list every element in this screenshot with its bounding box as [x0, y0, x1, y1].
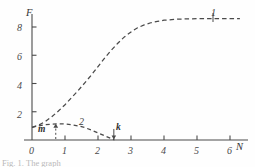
- x-tick-label-4: 4: [161, 146, 166, 156]
- figure-container: F N 8 6 4 2 0 1 2 3 4 5 6 1 2 m k Fig. 1…: [0, 0, 255, 167]
- y-tick-label-4: 4: [17, 81, 22, 91]
- plot-canvas: [0, 0, 255, 167]
- x-tick-label-0: 0: [29, 146, 34, 156]
- y-tick-label-6: 6: [17, 52, 22, 62]
- curve-label-1: 1: [211, 8, 216, 18]
- x-axis-label: N: [236, 142, 243, 153]
- y-axis-label: F: [26, 8, 32, 19]
- x-tick-label-1: 1: [62, 146, 67, 156]
- x-tick-label-5: 5: [194, 146, 199, 156]
- annotation-label-k: k: [116, 123, 121, 133]
- x-tick-label-2: 2: [95, 146, 100, 156]
- x-tick-label-3: 3: [128, 146, 133, 156]
- curve-label-2: 2: [79, 117, 84, 127]
- annotation-k-arrow-icon: [112, 136, 117, 140]
- y-tick-label-2: 2: [17, 110, 22, 120]
- y-tick-label-8: 8: [17, 23, 22, 33]
- data-curve-1: [32, 19, 240, 128]
- figure-caption: Fig. 1. The graph: [2, 159, 61, 167]
- x-tick-label-6: 6: [227, 146, 232, 156]
- annotation-label-m: m: [38, 125, 45, 135]
